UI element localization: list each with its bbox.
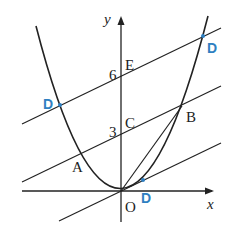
line-through-O [59,143,221,221]
x-axis-label: x [206,196,214,212]
diagram-canvas: y x O 6 E 3 C B A D D D [0,0,227,233]
point-D-upper-right-label: D [207,40,217,56]
tick-6-label: 6 [109,67,117,83]
point-D-near-origin [141,178,145,182]
point-A-label: A [72,159,83,175]
tick-3-label: 3 [109,124,117,140]
origin-label: O [125,199,136,215]
point-D-left-label: D [43,96,53,112]
point-B-label: B [186,109,196,125]
point-D-near-origin-label: D [141,190,151,206]
point-E-label: E [125,57,134,73]
point-D-upper-right [201,34,205,38]
y-axis-arrow-icon [118,16,125,25]
point-D-left [58,103,62,107]
parabola-diagram: y x O 6 E 3 C B A D D D [0,0,227,233]
point-C-label: C [125,115,135,131]
y-axis-label: y [102,11,111,27]
x-axis-arrow-icon [205,188,214,195]
